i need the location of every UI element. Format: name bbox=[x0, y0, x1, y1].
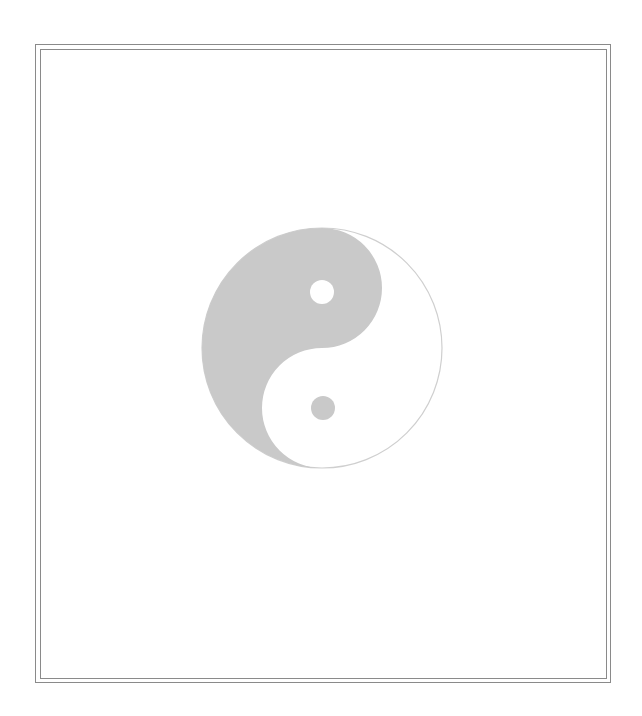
yang-dot-icon bbox=[310, 280, 334, 304]
yin-yang-icon bbox=[0, 0, 642, 716]
yin-dot-icon bbox=[311, 396, 335, 420]
